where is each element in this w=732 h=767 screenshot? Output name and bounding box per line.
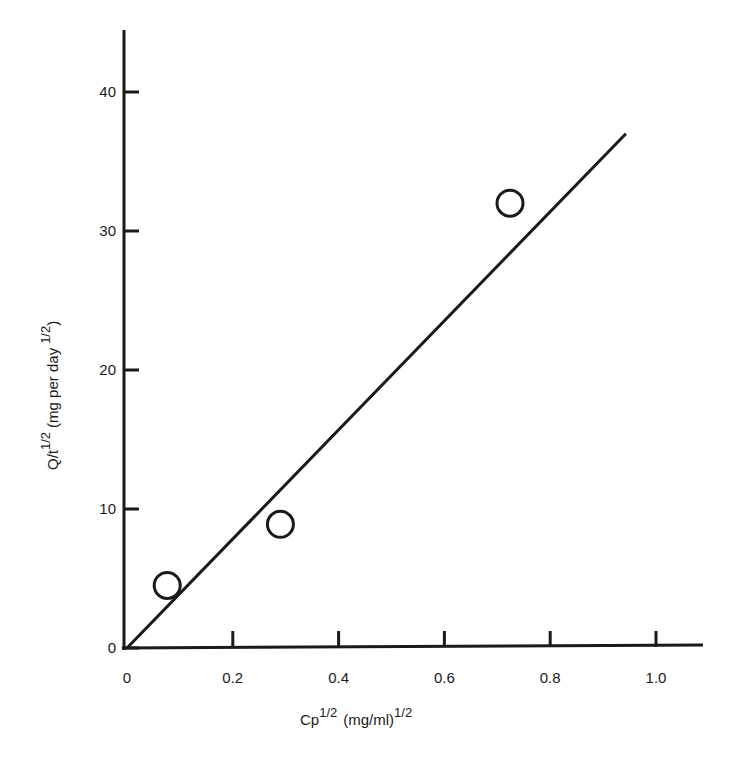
x-tick-label: 0.4: [328, 669, 349, 686]
x-tick-label: 0.6: [434, 669, 455, 686]
fit-line: [127, 134, 626, 648]
axes: [122, 30, 703, 650]
y-tick-label: 30: [99, 222, 116, 239]
data-point-marker: [154, 572, 180, 598]
x-tick-label: 1.0: [646, 669, 667, 686]
x-axis: [122, 645, 703, 648]
scatter-chart: 010203040 00.20.40.60.81.0 Cp1/2(mg/ml)1…: [0, 0, 732, 767]
data-points: [154, 190, 523, 598]
y-axis-label: Q/t1/2(mg per day1/2): [38, 321, 61, 470]
data-point-marker: [267, 511, 293, 537]
x-tick-label: 0.2: [222, 669, 243, 686]
y-tick-label: 10: [99, 500, 116, 517]
y-ticks: 010203040: [99, 83, 139, 656]
x-axis-label: Cp1/2(mg/ml)1/2: [300, 705, 412, 728]
x-ticks: 00.20.40.60.81.0: [123, 631, 667, 686]
y-tick-label: 40: [99, 83, 116, 100]
x-tick-label: 0: [123, 669, 131, 686]
regression-line: [127, 134, 626, 648]
y-tick-label: 20: [99, 361, 116, 378]
data-point-marker: [497, 190, 523, 216]
y-tick-label: 0: [108, 639, 116, 656]
x-tick-label: 0.8: [540, 669, 561, 686]
